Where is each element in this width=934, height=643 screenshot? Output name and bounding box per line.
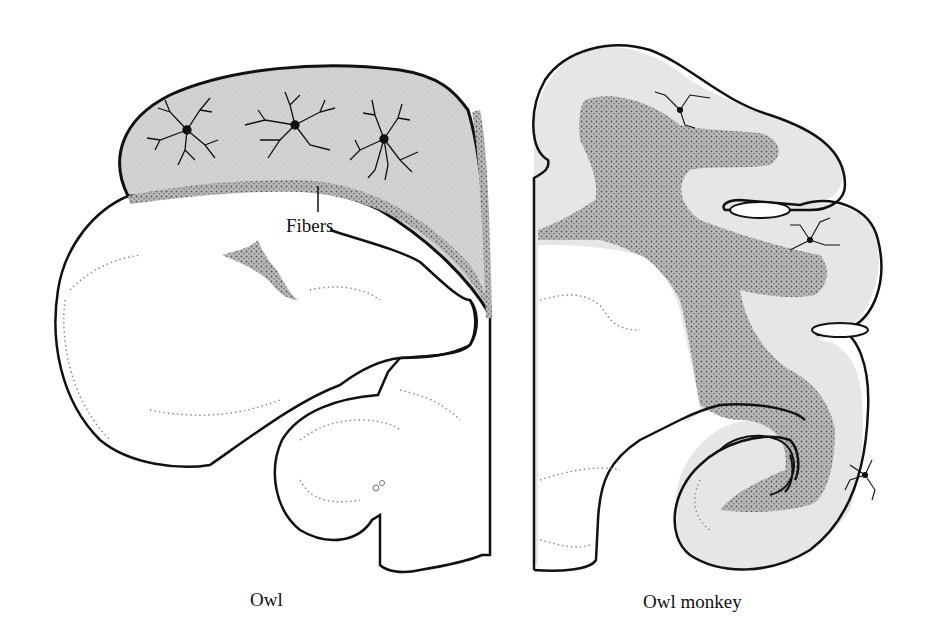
owl-lower-outline <box>275 318 490 572</box>
caption-owl: Owl <box>250 589 283 610</box>
owl-hemisphere-outline <box>55 196 475 467</box>
owl-monkey-brain-section <box>533 45 881 571</box>
fibers-label: Fibers <box>286 215 334 236</box>
owl-brain-section: Fibers <box>55 66 492 572</box>
caption-owl-monkey: Owl monkey <box>643 591 742 612</box>
brain-comparison-figure: Fibers <box>0 0 934 643</box>
